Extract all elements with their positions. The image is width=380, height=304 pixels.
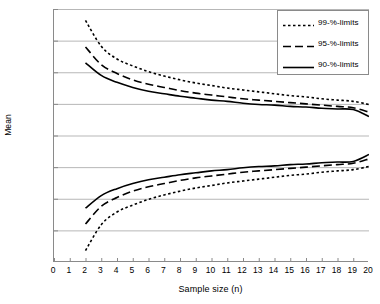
x-axis-tick-label: 9 [192, 265, 197, 275]
chart-container: Mean 98.098.599.099.5100.0100.5101.0101.… [0, 0, 380, 304]
y-axis-title: Mean [3, 100, 13, 150]
x-axis-tick-label: 15 [285, 265, 294, 275]
x-axis-tick-label: 2 [82, 265, 87, 275]
x-axis-tick-label: 12 [237, 265, 246, 275]
x-axis-tick-label: 11 [222, 265, 231, 275]
chart-legend: 99-%-limits95-%-limits90-%-limits [277, 10, 369, 75]
x-axis-tick-label: 13 [253, 265, 262, 275]
legend-item[interactable]: 95-%-limits [278, 33, 370, 54]
legend-item[interactable]: 90-%-limits [278, 54, 370, 75]
x-axis-tick-label: 16 [300, 265, 309, 275]
legend-item-label: 90-%-limits [318, 60, 359, 69]
x-axis-title: Sample size (n) [53, 284, 368, 294]
x-axis-tick-label: 7 [161, 265, 166, 275]
series-line [86, 166, 370, 250]
x-axis-tick-label: 20 [363, 265, 372, 275]
x-axis-tick-label: 18 [332, 265, 341, 275]
x-axis-tick-label: 0 [51, 265, 56, 275]
legend-item-label: 99-%-limits [318, 18, 359, 27]
x-axis-tick-label: 17 [316, 265, 325, 275]
x-axis-tick-label: 10 [206, 265, 215, 275]
x-axis-tick-label: 6 [145, 265, 150, 275]
x-axis-tick-label: 8 [177, 265, 182, 275]
legend-item-label: 95-%-limits [318, 39, 359, 48]
legend-line-swatch [283, 59, 314, 70]
x-axis-tick-label: 4 [114, 265, 119, 275]
x-axis-tick-label: 1 [66, 265, 71, 275]
series-line [86, 159, 370, 224]
legend-line-swatch [283, 17, 314, 28]
x-axis-tick-label: 3 [98, 265, 103, 275]
series-line [86, 154, 370, 208]
x-axis-tick-label: 5 [129, 265, 134, 275]
legend-line-swatch [283, 38, 314, 49]
x-axis-tick-label: 14 [269, 265, 278, 275]
x-axis-tick-label: 19 [348, 265, 357, 275]
legend-item[interactable]: 99-%-limits [278, 12, 370, 33]
